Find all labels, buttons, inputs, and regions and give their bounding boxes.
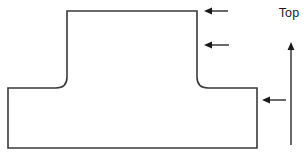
leader-arrow-flange-side-head	[262, 97, 270, 104]
t-section-outline	[8, 11, 257, 148]
top-direction-arrow	[288, 42, 295, 145]
leader-arrow-web-side	[204, 42, 229, 49]
leader-arrow-web-top-head	[204, 8, 212, 15]
t-section-diagram	[0, 0, 306, 162]
leader-arrow-web-side-head	[204, 42, 212, 49]
leader-arrow-flange-side	[262, 97, 286, 104]
top-direction-arrow-head	[288, 42, 295, 50]
leader-arrow-web-top	[204, 8, 228, 15]
diagram-canvas: Top	[0, 0, 306, 162]
top-orientation-label: Top	[272, 6, 306, 21]
